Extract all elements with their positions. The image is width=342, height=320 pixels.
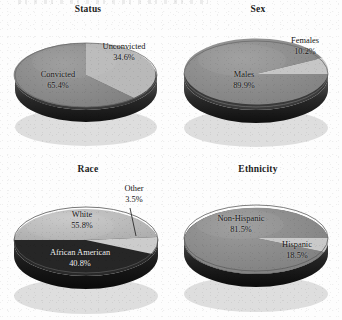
slice-name-unconvicted: Unconvicted [103,42,146,51]
pie-race: White 55.8% African American 40.8% Other… [6,164,170,316]
slice-name-males: Males [234,70,254,79]
slice-name-non-hispanic: Non-Hispanic [218,214,265,223]
slice-pct-unconvicted: 34.6% [82,53,166,64]
panel-ethnicity: Ethnicity [176,164,340,316]
slice-pct-african-american: 40.8% [30,259,130,270]
slice-label-hispanic: Hispanic 18.5% [262,240,332,261]
slice-name-other: Other [124,184,143,193]
slice-pct-males: 89.9% [212,81,276,92]
slice-label-males: Males 89.9% [212,70,276,91]
panel-race: Race [6,164,170,316]
slice-label-females: Females 10.2% [272,36,338,57]
slice-label-convicted: Convicted 65.4% [20,70,96,91]
slice-pct-other: 3.5% [110,195,158,206]
slice-pct-white: 55.8% [50,221,114,232]
pie-ethnicity: Non-Hispanic 81.5% Hispanic 18.5% [176,164,340,316]
slice-label-other: Other 3.5% [110,184,158,205]
slice-name-females: Females [291,36,319,45]
pie-chart-figure: Status [0,0,342,320]
slice-pct-females: 10.2% [272,47,338,58]
pie-sex: Males 89.9% Females 10.2% [176,4,340,150]
slice-name-convicted: Convicted [41,70,75,79]
slice-name-white: White [72,210,92,219]
panel-sex: Sex [176,4,340,150]
slice-pct-hispanic: 18.5% [262,251,332,262]
slice-label-white: White 55.8% [50,210,114,231]
panel-status: Status [6,4,170,150]
slice-label-unconvicted: Unconvicted 34.6% [82,42,166,63]
slice-label-african-american: African American 40.8% [30,248,130,269]
slice-label-non-hispanic: Non-Hispanic 81.5% [194,214,288,235]
slice-name-hispanic: Hispanic [282,240,312,249]
slice-pct-non-hispanic: 81.5% [194,225,288,236]
slice-name-african-american: African American [50,248,110,257]
pie-status: Convicted 65.4% Unconvicted 34.6% [6,4,170,150]
slice-pct-convicted: 65.4% [20,81,96,92]
